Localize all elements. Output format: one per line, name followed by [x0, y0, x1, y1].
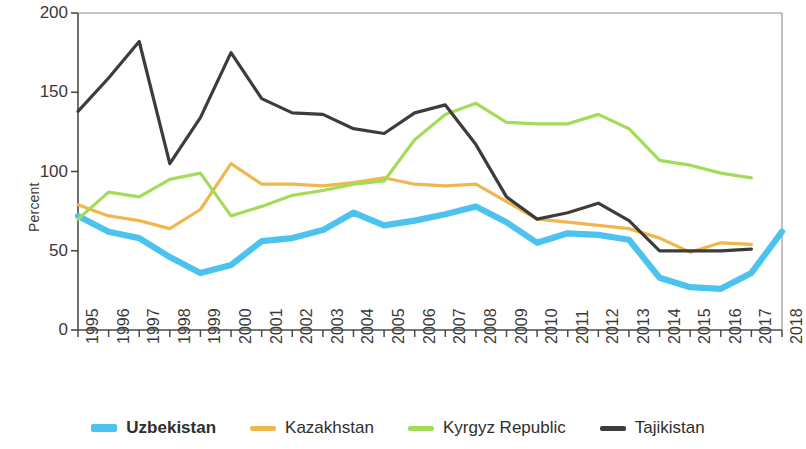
- x-tick-label: 2010: [543, 308, 561, 344]
- x-tick-label: 1995: [84, 308, 102, 344]
- x-tick-label: 2000: [237, 308, 255, 344]
- x-tick-label: 1999: [206, 308, 224, 344]
- x-tick-label: 2002: [298, 308, 316, 344]
- legend-swatch-icon: [408, 426, 434, 431]
- legend-label: Uzbekistan: [126, 418, 216, 438]
- x-tick-label: 2016: [727, 308, 745, 344]
- legend-item-kyrgyz-republic[interactable]: Kyrgyz Republic: [408, 418, 566, 438]
- legend-label: Kazakhstan: [285, 418, 374, 438]
- chart-legend: UzbekistanKazakhstanKyrgyz RepublicTajik…: [0, 408, 796, 448]
- x-tick-label: 2004: [359, 308, 377, 344]
- x-tick-label: 2013: [635, 308, 653, 344]
- x-tick-label: 2018: [788, 308, 806, 344]
- x-tick-label: 2014: [666, 308, 684, 344]
- x-tick-label: 2011: [574, 310, 592, 344]
- x-tick-label: 2009: [513, 308, 531, 344]
- x-tick-label: 2001: [268, 308, 286, 344]
- legend-swatch-icon: [250, 426, 276, 431]
- x-tick-label: 2008: [482, 308, 500, 344]
- legend-swatch-icon: [91, 424, 117, 432]
- x-tick-label: 2005: [390, 308, 408, 344]
- x-tick-label: 2003: [329, 308, 347, 344]
- legend-item-uzbekistan[interactable]: Uzbekistan: [91, 418, 216, 438]
- x-tick-label: 1996: [115, 308, 133, 344]
- legend-swatch-icon: [600, 426, 626, 431]
- legend-item-tajikistan[interactable]: Tajikistan: [600, 418, 705, 438]
- x-tick-label: 2006: [421, 308, 439, 344]
- legend-label: Tajikistan: [635, 418, 705, 438]
- x-tick-label: 2017: [757, 308, 775, 344]
- x-tick-label: 2015: [696, 308, 714, 344]
- legend-label: Kyrgyz Republic: [443, 418, 566, 438]
- legend-item-kazakhstan[interactable]: Kazakhstan: [250, 418, 374, 438]
- x-tick-label: 2007: [451, 308, 469, 344]
- x-tick-label: 1997: [145, 308, 163, 344]
- x-tick-label: 2012: [604, 308, 622, 344]
- x-tick-label: 1998: [176, 308, 194, 344]
